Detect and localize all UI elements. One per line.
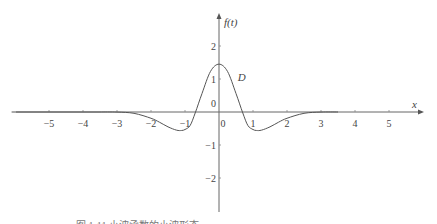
- x-tick-label: −5: [44, 118, 55, 129]
- x-tick-label: 5: [387, 118, 392, 129]
- y-tick-label: 2: [211, 41, 216, 52]
- y-tick-label: −1: [205, 140, 216, 151]
- figure-caption: 图 1-11 小波函数的小波形态: [76, 219, 199, 224]
- x-tick-label: 1: [251, 118, 256, 129]
- x-tick-label: −4: [78, 118, 89, 129]
- x-axis-arrow-icon: [418, 110, 424, 115]
- chart: −5−4−3−2−1012345210−1−2 x f(t) D 图 1-11 …: [0, 0, 437, 224]
- annotation-label: D: [237, 71, 246, 83]
- x-tick-label: 4: [353, 118, 358, 129]
- x-tick-label: −3: [112, 118, 123, 129]
- y-axis-arrow-icon: [217, 13, 222, 19]
- x-tick-label: 3: [319, 118, 324, 129]
- x-tick-label: 2: [285, 118, 290, 129]
- y-axis-label: f(t): [224, 16, 238, 29]
- y-tick-label: 1: [211, 74, 216, 85]
- y-tick-label: 0: [211, 98, 216, 109]
- y-tick-label: −2: [205, 173, 216, 184]
- x-axis-label: x: [411, 98, 417, 110]
- annotations: D: [237, 71, 246, 83]
- x-tick-label: 0: [221, 118, 226, 129]
